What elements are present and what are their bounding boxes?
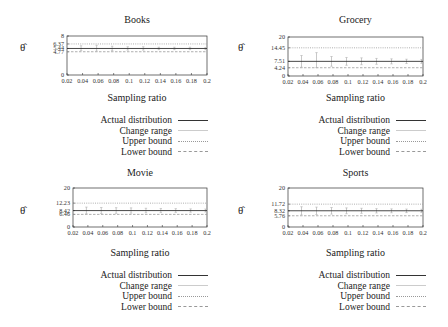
chart-panel-movie: Movie θ̂ 06.468.4212.23200.020.040.060.0…: [0, 163, 224, 326]
svg-text:0.2: 0.2: [203, 77, 211, 84]
x-axis-label: Sampling ratio: [288, 92, 423, 103]
errorbar-swatch: [178, 285, 208, 286]
legend: Actual distribution Change range Upper b…: [100, 115, 208, 157]
svg-text:0.14: 0.14: [373, 78, 384, 85]
svg-text:0.02: 0.02: [68, 229, 79, 236]
legend-item-lower-bound: Lower bound: [100, 302, 208, 313]
svg-text:0.06: 0.06: [97, 229, 108, 236]
plot-area: 04.775.446.3780.020.040.060.080.10.120.1…: [0, 0, 224, 100]
legend-item-lower-bound: Lower bound: [318, 147, 426, 158]
svg-text:0.16: 0.16: [388, 78, 399, 85]
svg-text:8: 8: [61, 32, 64, 39]
dotted-line-swatch: [396, 141, 426, 142]
dashed-line-swatch: [178, 306, 208, 307]
x-axis-label: Sampling ratio: [67, 92, 207, 103]
svg-text:0.18: 0.18: [403, 78, 414, 85]
svg-text:0.04: 0.04: [77, 77, 88, 84]
svg-text:0.1: 0.1: [129, 229, 137, 236]
chart-panel-grocery: Grocery θ̂ 04.247.5114.45200.020.040.060…: [224, 0, 448, 163]
legend-item-actual: Actual distribution: [318, 270, 426, 281]
solid-line-swatch: [396, 120, 426, 121]
svg-text:0.06: 0.06: [313, 78, 324, 85]
svg-text:8.42: 8.42: [59, 207, 70, 214]
dotted-line-swatch: [178, 141, 208, 142]
svg-text:0.16: 0.16: [172, 229, 183, 236]
svg-text:12.23: 12.23: [56, 199, 70, 206]
svg-text:0.16: 0.16: [170, 77, 181, 84]
svg-text:6.37: 6.37: [53, 40, 64, 47]
errorbar-swatch: [178, 130, 208, 131]
svg-text:0.1: 0.1: [125, 77, 133, 84]
chart-panel-sports: Sports θ̂ 05.768.3211.72200.020.040.060.…: [224, 163, 448, 326]
svg-text:0.02: 0.02: [62, 77, 73, 84]
legend-item-actual: Actual distribution: [100, 115, 208, 126]
svg-text:0.2: 0.2: [419, 78, 427, 85]
dotted-line-swatch: [396, 296, 426, 297]
legend: Actual distribution Change range Upper b…: [318, 270, 426, 312]
legend-item-upper-bound: Upper bound: [318, 291, 426, 302]
legend-item-upper-bound: Upper bound: [318, 136, 426, 147]
legend-item-lower-bound: Lower bound: [100, 147, 208, 158]
svg-text:7.51: 7.51: [274, 57, 285, 64]
svg-text:11.72: 11.72: [271, 200, 285, 207]
svg-text:14.45: 14.45: [271, 44, 285, 51]
svg-text:0.18: 0.18: [187, 229, 198, 236]
svg-text:0.12: 0.12: [142, 229, 153, 236]
x-axis-label: Sampling ratio: [288, 247, 423, 258]
legend-item-change-range: Change range: [318, 281, 426, 292]
solid-line-swatch: [178, 120, 208, 121]
svg-text:0.12: 0.12: [358, 229, 369, 236]
svg-text:8.32: 8.32: [274, 207, 285, 214]
dashed-line-swatch: [396, 306, 426, 307]
dashed-line-swatch: [178, 151, 208, 152]
svg-text:0.18: 0.18: [186, 77, 197, 84]
svg-text:0.02: 0.02: [283, 229, 294, 236]
legend-item-change-range: Change range: [100, 126, 208, 137]
svg-text:0.16: 0.16: [388, 229, 399, 236]
svg-text:0.02: 0.02: [283, 78, 294, 85]
svg-text:0.1: 0.1: [344, 229, 352, 236]
dotted-line-swatch: [178, 296, 208, 297]
svg-text:0.08: 0.08: [108, 77, 119, 84]
legend-item-change-range: Change range: [318, 126, 426, 137]
svg-text:0.04: 0.04: [298, 229, 309, 236]
svg-text:20: 20: [279, 33, 285, 40]
legend: Actual distribution Change range Upper b…: [318, 115, 426, 157]
legend-item-actual: Actual distribution: [318, 115, 426, 126]
svg-text:0.04: 0.04: [298, 78, 309, 85]
svg-text:0.06: 0.06: [313, 229, 324, 236]
dashed-line-swatch: [396, 151, 426, 152]
solid-line-swatch: [396, 275, 426, 276]
svg-text:20: 20: [279, 184, 285, 191]
svg-text:0.14: 0.14: [373, 229, 384, 236]
svg-text:0.08: 0.08: [112, 229, 123, 236]
svg-text:20: 20: [64, 184, 70, 191]
svg-text:0.04: 0.04: [82, 229, 93, 236]
legend-item-upper-bound: Upper bound: [100, 136, 208, 147]
svg-text:0.12: 0.12: [139, 77, 150, 84]
errorbar-swatch: [396, 285, 426, 286]
errorbar-swatch: [396, 130, 426, 131]
svg-text:0.1: 0.1: [344, 78, 352, 85]
plot-area: 04.247.5114.45200.020.040.060.080.10.120…: [224, 0, 448, 100]
svg-text:4.24: 4.24: [274, 64, 285, 71]
svg-text:0.06: 0.06: [93, 77, 104, 84]
svg-text:0.08: 0.08: [328, 229, 339, 236]
legend-item-upper-bound: Upper bound: [100, 291, 208, 302]
svg-text:0.08: 0.08: [328, 78, 339, 85]
solid-line-swatch: [178, 275, 208, 276]
svg-text:0.2: 0.2: [419, 229, 427, 236]
legend-item-change-range: Change range: [100, 281, 208, 292]
x-axis-label: Sampling ratio: [73, 247, 207, 258]
chart-panel-books: Books θ̂ 04.775.446.3780.020.040.060.080…: [0, 0, 224, 163]
svg-text:0.2: 0.2: [203, 229, 211, 236]
legend-item-lower-bound: Lower bound: [318, 302, 426, 313]
legend-item-actual: Actual distribution: [100, 270, 208, 281]
svg-text:0.14: 0.14: [157, 229, 168, 236]
svg-text:0.12: 0.12: [358, 78, 369, 85]
legend: Actual distribution Change range Upper b…: [100, 270, 208, 312]
svg-text:0.14: 0.14: [155, 77, 166, 84]
svg-text:0.18: 0.18: [403, 229, 414, 236]
